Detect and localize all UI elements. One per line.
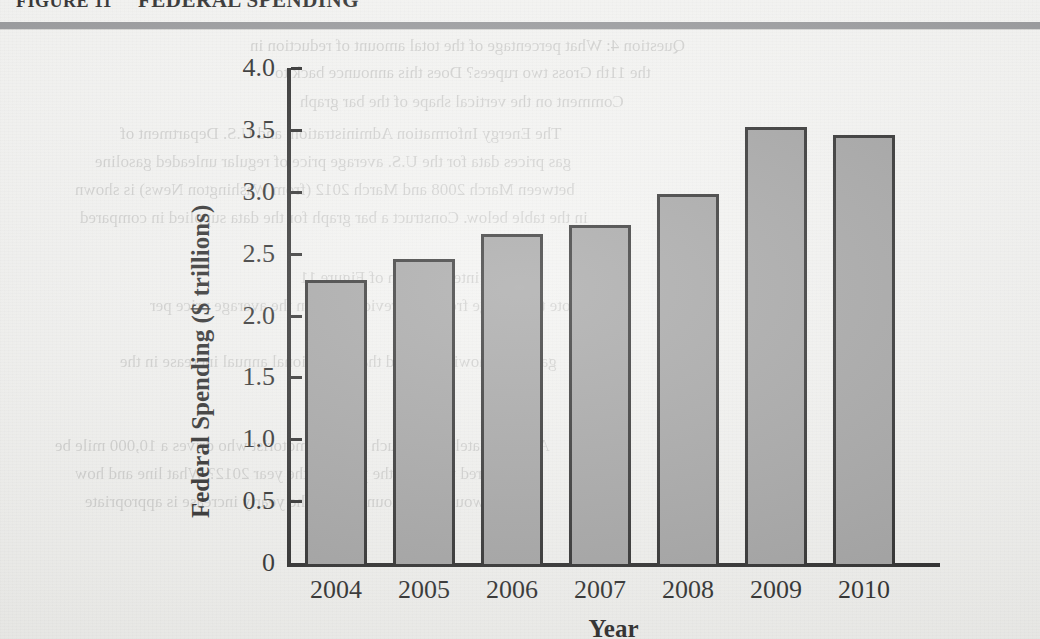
y-axis-tick bbox=[291, 67, 302, 70]
y-axis-tick bbox=[291, 438, 302, 441]
y-axis-tick-label: 2.5 bbox=[205, 241, 275, 267]
y-axis-tick bbox=[291, 129, 302, 132]
y-axis-tick-label: 1.5 bbox=[205, 364, 275, 390]
y-axis-tick-label: 0.5 bbox=[205, 488, 275, 514]
bar[interactable] bbox=[569, 225, 631, 567]
bar[interactable] bbox=[745, 127, 807, 567]
x-axis-title: Year bbox=[287, 615, 940, 639]
bar[interactable] bbox=[833, 135, 895, 567]
bar[interactable] bbox=[305, 280, 367, 567]
y-axis-tick bbox=[291, 253, 302, 256]
bar[interactable] bbox=[657, 194, 719, 567]
y-axis-title: Federal Spending ($ trillions) bbox=[187, 205, 215, 518]
bar-chart: 00.51.01.52.02.53.03.54.0Federal Spendin… bbox=[0, 0, 1040, 639]
bar[interactable] bbox=[393, 259, 455, 567]
y-axis-tick bbox=[291, 376, 302, 379]
y-axis-tick-label: 3.5 bbox=[205, 117, 275, 143]
y-axis-tick bbox=[291, 500, 302, 503]
y-axis-tick-label: 3.0 bbox=[205, 179, 275, 205]
x-axis-tick-label: 2010 bbox=[809, 577, 919, 603]
y-axis-tick bbox=[291, 191, 302, 194]
bar[interactable] bbox=[481, 234, 543, 567]
y-axis-tick-label: 2.0 bbox=[205, 303, 275, 329]
y-axis-tick-label: 4.0 bbox=[205, 55, 275, 81]
y-axis-tick bbox=[291, 315, 302, 318]
y-axis-tick-label: 0 bbox=[205, 550, 275, 576]
y-axis-tick-label: 1.0 bbox=[205, 426, 275, 452]
